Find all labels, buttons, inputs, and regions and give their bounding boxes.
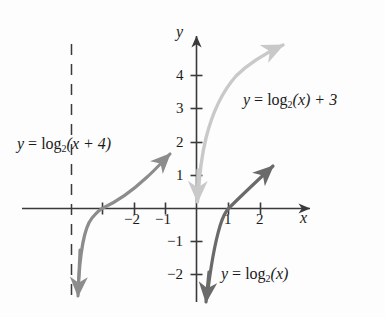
annotation-1-log: log <box>41 135 61 152</box>
x-tick-label-neg2: −2 <box>124 212 140 227</box>
x-tick-label-neg1: −1 <box>155 212 171 227</box>
annotation-2-arg: (x) + 3 <box>293 91 338 108</box>
y-tick-label-4: 4 <box>176 68 184 83</box>
y-tick-label-2: 2 <box>176 135 184 150</box>
annotation-3-equals: = <box>232 265 241 282</box>
annotation-1-arg: (x + 4) <box>67 135 112 152</box>
y-tick-label-neg2: −2 <box>167 267 183 282</box>
annotation-1-equals: = <box>28 135 37 152</box>
y-axis-label: y <box>176 24 183 40</box>
y-tick-label-neg1: −1 <box>167 234 183 249</box>
curve-log2-x-plus-3 <box>198 45 283 198</box>
annotation-2-equals: = <box>254 91 263 108</box>
y-tick-label-3: 3 <box>176 101 184 116</box>
annotation-2-log: log <box>267 91 287 108</box>
annotation-3-arg: (x) <box>271 265 289 282</box>
logarithm-transformations-figure: y x 4 3 2 1 −1 −2 −2 −1 1 2 y = log2(x +… <box>0 0 385 317</box>
curve-log2-x-plus-3-down-arrow <box>198 170 199 202</box>
x-tick-label-2: 2 <box>256 212 264 227</box>
annotation-1-y: y <box>17 135 24 152</box>
annotation-log2-x: y = log2(x) <box>221 266 288 284</box>
x-tick-label-1: 1 <box>224 212 232 227</box>
annotation-log2-x-plus-3: y = log2(x) + 3 <box>243 92 337 110</box>
x-axis-label: x <box>300 210 307 226</box>
y-tick-label-1: 1 <box>176 168 184 183</box>
annotation-3-y: y <box>221 265 228 282</box>
curve-log2-x-plus-4-down-arrow <box>78 250 80 296</box>
plot-canvas <box>0 0 385 317</box>
annotation-log2-x-plus-4: y = log2(x + 4) <box>17 136 111 154</box>
annotation-2-y: y <box>243 91 250 108</box>
annotation-3-log: log <box>245 265 265 282</box>
